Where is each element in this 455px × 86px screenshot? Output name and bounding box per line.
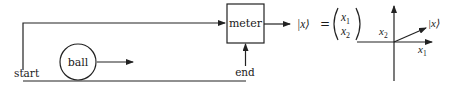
meter-label: meter bbox=[229, 17, 263, 30]
equals-sign: = bbox=[320, 17, 330, 31]
component-x1: x1 bbox=[340, 11, 350, 26]
ball: ball bbox=[60, 44, 96, 80]
x2-axis-label: x2 bbox=[378, 25, 388, 40]
start-signal-path bbox=[23, 23, 225, 70]
ball-label: ball bbox=[68, 56, 89, 69]
component-x2: x2 bbox=[340, 25, 350, 40]
state-vector-equation: |x⟩ = x1 x2 bbox=[297, 8, 360, 40]
left-paren bbox=[334, 8, 338, 40]
meter-box: meter bbox=[227, 4, 264, 43]
vector-label: |x⟩ bbox=[428, 17, 440, 29]
coordinate-axes: x2 x1 |x⟩ bbox=[357, 6, 440, 81]
end-label: end bbox=[235, 66, 255, 78]
right-paren bbox=[356, 8, 360, 40]
state-vector-arrow bbox=[394, 28, 426, 42]
start-label: start bbox=[14, 67, 40, 79]
ket-x: |x⟩ bbox=[297, 18, 310, 31]
x1-axis-label: x1 bbox=[417, 43, 427, 58]
measurement-diagram: start ball meter end |x⟩ = x1 x2 x2 x1 |… bbox=[0, 0, 455, 86]
